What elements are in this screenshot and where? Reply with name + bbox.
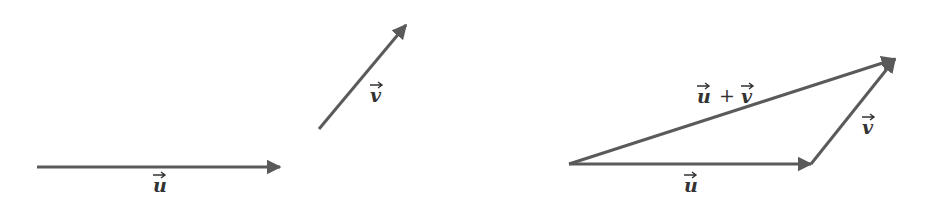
right-panel: u v u + v [569,59,895,196]
svg-text:u: u [697,85,711,107]
vector-v-label: v [862,114,874,138]
vector-v-label: v [370,82,382,106]
vector-addition-diagram: u v u v u + v [0,0,928,198]
vector-sum-label: u + v [697,83,753,107]
vector-v-arrow [319,25,406,129]
svg-text:u: u [684,174,698,196]
vector-u-label: u [684,172,698,196]
left-panel: u v [37,25,406,196]
svg-text:u: u [153,174,167,196]
svg-text:v: v [741,85,753,107]
svg-text:v: v [862,116,874,138]
vector-sum-arrow [569,59,895,164]
vector-v-arrow [811,59,895,164]
svg-text:v: v [370,84,382,106]
vector-u-label: u [153,172,167,196]
svg-text:+: + [719,84,735,106]
